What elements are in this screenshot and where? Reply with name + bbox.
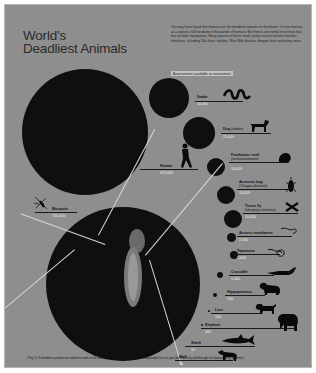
hippo-label: Hippopotamus — [227, 290, 252, 294]
roundworm-icon — [280, 226, 298, 236]
assassin-bubble — [217, 186, 235, 204]
lion-label: Lion — [215, 308, 223, 312]
dog-rule — [221, 133, 271, 134]
elephant-value: 100 — [205, 330, 211, 334]
crocodile-label: Crocodile — [231, 270, 248, 274]
lion-bubble — [208, 310, 210, 312]
mosquito-value: 725,000 — [52, 214, 65, 218]
hippo-value: 500 — [227, 297, 233, 301]
snail-bubble — [207, 158, 225, 176]
ascaris-label: Ascaris roundworm — [239, 231, 273, 235]
mosquito-rule — [35, 212, 77, 213]
tsetse-label: Tsetse fly(sleeping sickness) — [245, 204, 276, 212]
shark-label: Shark — [191, 341, 201, 345]
dog-label: Dog (rabies) — [223, 127, 243, 131]
assassin-label: Assassin bug(Chagas disease) — [239, 180, 267, 188]
lion-rule — [211, 313, 261, 314]
human-icon — [179, 143, 193, 169]
snail-label: Freshwater snail(schistosomiasis) — [231, 153, 259, 161]
crocodile-value: 1,000 — [231, 277, 240, 281]
assassin-rule — [237, 189, 293, 190]
dog-icon — [249, 118, 271, 132]
tsetse-bubble — [224, 210, 242, 228]
ascaris-value: 2,500 — [239, 238, 248, 242]
snail-icon — [278, 151, 292, 163]
ascaris-bubble — [227, 233, 236, 242]
crocodile-icon — [267, 267, 297, 277]
tsetse-value: 10,000 — [245, 215, 256, 219]
hippo-icon — [259, 282, 281, 296]
snake-icon — [223, 88, 251, 102]
title-line-2: Deadliest Animals — [23, 42, 127, 55]
lion-icon — [255, 302, 277, 314]
human-rule — [140, 169, 198, 170]
infographic-poster: World's Deadliest Animals You may have h… — [4, 4, 312, 368]
shark-rule — [185, 346, 255, 347]
snail-value: 10,000 — [231, 167, 242, 171]
ascaris-rule — [237, 236, 292, 237]
shark-icon — [222, 334, 256, 346]
elephant-icon — [277, 313, 299, 331]
assassin-value: 10,000 — [239, 191, 250, 195]
elephant-label: Elephant — [205, 323, 220, 327]
crocodile-bubble — [217, 272, 223, 278]
tapeworm-icon — [267, 246, 287, 258]
human-value: 475,000 — [160, 171, 173, 175]
shark-value: 10 — [191, 348, 195, 352]
tapeworm-label: Tapeworm — [237, 249, 255, 253]
snake-value: 50,000 — [197, 102, 208, 106]
intro-text: You may have heard that humans are the d… — [171, 25, 307, 43]
hippo-bubble — [213, 293, 217, 297]
tsetse-rule — [243, 213, 298, 214]
footnote: (*Fig.1) 15 deadliest animals are ranked… — [27, 357, 297, 361]
elephant-bubble — [201, 324, 203, 326]
human-label: Human — [160, 164, 172, 168]
tsetse-fly-icon — [284, 201, 300, 213]
snake-bubble — [149, 78, 189, 118]
page-title: World's Deadliest Animals — [23, 29, 127, 55]
mosquito-icon — [33, 195, 49, 211]
dog-value: 25,000 — [223, 135, 234, 139]
mosquito-label: Mosquito — [52, 207, 68, 211]
lion-value: 100 — [215, 315, 221, 319]
assessment-link[interactable]: Assessment available at smartsmart — [171, 71, 233, 76]
assassin-bug-icon — [286, 177, 296, 193]
snake-label: Snake — [197, 95, 208, 99]
tapeworm-value: 2,000 — [237, 256, 246, 260]
mosquito-illustration — [113, 225, 153, 325]
wolf-value: 10 — [179, 362, 183, 366]
